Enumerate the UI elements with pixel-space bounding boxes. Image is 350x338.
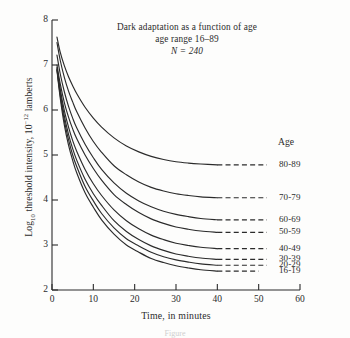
y-tick-label: 5 [34, 149, 48, 159]
y-tick-label: 2 [34, 284, 48, 294]
legend-label: 80-89 [279, 159, 301, 169]
y-axis-label-prefix: Log [23, 221, 34, 237]
leader-dashes-group [217, 165, 267, 271]
x-tick-label: 50 [249, 294, 269, 304]
chart-subtitle: age range 16–89 [92, 34, 282, 46]
legend-label: 40-49 [279, 243, 301, 253]
x-tick-label: 30 [166, 294, 186, 304]
dark-adaptation-figure: Dark adaptation as a function of age age… [0, 0, 350, 338]
legend-label: 50-59 [279, 226, 301, 236]
legend-label: 16-19 [279, 265, 301, 275]
x-axis-ticks [52, 284, 300, 290]
sample-note-text: N = 240 [171, 46, 203, 56]
y-axis-label-superscript: −12 [22, 114, 29, 125]
figure-caption: Figure [0, 329, 350, 338]
x-tick-label: 0 [42, 294, 62, 304]
y-axis-ticks [52, 20, 58, 290]
x-tick-label: 40 [207, 294, 227, 304]
legend-label: 60-69 [279, 214, 301, 224]
chart-sample-note: N = 240 [92, 46, 282, 58]
y-axis-label-subscript: 10 [29, 214, 36, 221]
chart-title: Dark adaptation as a function of age [92, 22, 282, 34]
legend-label: 70-79 [279, 192, 301, 202]
x-tick-label: 60 [290, 294, 310, 304]
axes [52, 20, 300, 290]
y-axis-label-suffix: lamberts [23, 77, 34, 113]
series-curve [57, 70, 217, 266]
x-tick-label: 10 [83, 294, 103, 304]
y-tick-label: 8 [34, 14, 48, 24]
chart-title-block: Dark adaptation as a function of age age… [92, 22, 282, 58]
y-tick-label: 6 [34, 104, 48, 114]
series-curve [57, 43, 217, 198]
y-axis-label-middle: threshold intensity, 10 [23, 124, 34, 214]
series-curve [57, 65, 217, 232]
x-axis-label: Time, in minutes [52, 310, 300, 321]
series-curve [57, 55, 217, 220]
series-curve [57, 67, 217, 248]
legend-title: Age [278, 136, 294, 147]
y-tick-label: 7 [34, 59, 48, 69]
data-series-group [57, 37, 217, 271]
y-tick-label: 3 [34, 239, 48, 249]
y-tick-label: 4 [34, 194, 48, 204]
x-tick-label: 20 [125, 294, 145, 304]
